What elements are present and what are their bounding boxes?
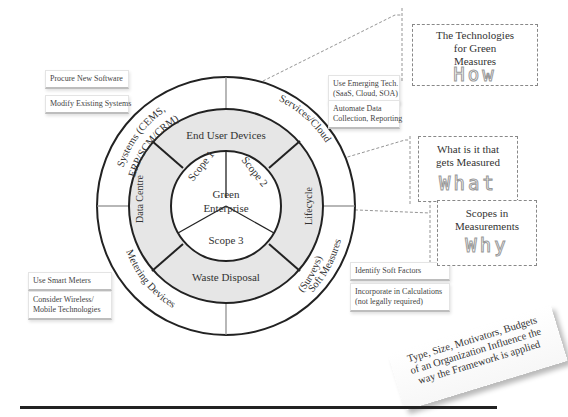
note-consider-wireless: Consider Wireless/ Mobile Technologies bbox=[28, 291, 112, 320]
center-label-line1: Green bbox=[213, 188, 240, 200]
callout-why: Scopes in Measurements Why bbox=[437, 200, 537, 266]
callout-what: What is it that gets Measured What bbox=[418, 136, 518, 202]
note-use-smart-meters: Use Smart Meters bbox=[28, 272, 112, 291]
callout-how: The Technologies for Green Measures How bbox=[412, 24, 538, 86]
note-procure-new-software: Procure New Software bbox=[45, 70, 129, 89]
note-identify-soft-factors: Identify Soft Factors bbox=[350, 262, 450, 281]
bottom-rule bbox=[20, 406, 497, 409]
note-modify-existing-systems: Modify Existing Systems bbox=[45, 95, 129, 114]
scope3-label: Scope 3 bbox=[208, 234, 244, 246]
center-label-line2: Enterprise bbox=[203, 202, 248, 214]
what-word: What bbox=[419, 173, 517, 193]
note-automate-data: Automate Data Collection, Reporting bbox=[328, 100, 400, 129]
end-user-devices-label: End User Devices bbox=[186, 129, 265, 141]
lifecycle-label: Lifecycle bbox=[303, 187, 314, 225]
note-incorporate-calculations: Incorporate in Calculations (not legally… bbox=[350, 283, 450, 312]
how-word: How bbox=[413, 64, 537, 84]
waste-disposal-label: Waste Disposal bbox=[192, 271, 260, 283]
why-word: Why bbox=[438, 235, 536, 255]
data-centre-label: Data Centre bbox=[134, 174, 145, 223]
